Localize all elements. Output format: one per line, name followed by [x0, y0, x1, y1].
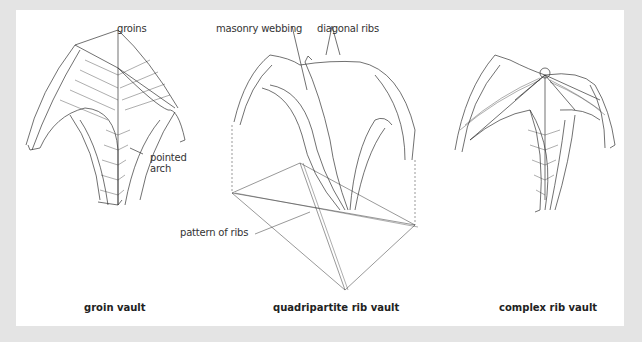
label-pointed-arch: pointed arch [150, 152, 190, 174]
label-pattern-of-ribs: pattern of ribs [180, 227, 248, 238]
label-diagonal-ribs: diagonal ribs [317, 23, 379, 34]
label-groins: groins [117, 23, 146, 34]
caption-groin-vault: groin vault [84, 302, 146, 313]
label-masonry-webbing: masonry webbing [216, 23, 302, 34]
groin-vault-drawing [26, 30, 185, 205]
vault-diagrams [0, 0, 642, 342]
caption-quadripartite-rib-vault: quadripartite rib vault [273, 302, 399, 313]
caption-complex-rib-vault: complex rib vault [499, 302, 597, 313]
complex-vault-drawing [455, 55, 615, 212]
quadripartite-vault-drawing [232, 26, 418, 290]
